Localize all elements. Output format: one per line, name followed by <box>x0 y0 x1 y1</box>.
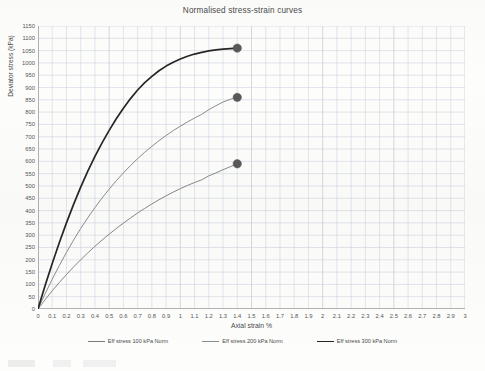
y-tick-label: 600 <box>25 158 35 164</box>
x-tick-label: 0.3 <box>77 313 85 319</box>
x-tick-label: 2.7 <box>418 313 426 319</box>
y-tick-label: 300 <box>25 232 35 238</box>
x-tick-label: 2.8 <box>433 313 441 319</box>
y-tick-label: 1050 <box>22 48 35 54</box>
x-tick-label: 0 <box>36 313 39 319</box>
legend-item-2[interactable]: Eff stress 200 kPa Norm <box>202 338 283 344</box>
legend-item-3[interactable]: Eff stress 300 kPa Norm <box>317 338 398 344</box>
page-footer-smudge <box>8 360 158 367</box>
x-tick-label: 0.9 <box>162 313 170 319</box>
y-tick-label: 500 <box>25 183 35 189</box>
y-tick-label: 550 <box>25 171 35 177</box>
x-tick-label: 1.5 <box>247 313 255 319</box>
x-tick-label: 1.4 <box>233 313 241 319</box>
y-tick-label: 1000 <box>22 60 35 66</box>
chart-figure: Normalised stress-strain curves Deviator… <box>0 0 485 371</box>
y-tick-label: 350 <box>25 220 35 226</box>
y-tick-label: 1150 <box>23 23 35 29</box>
y-tick-label: 250 <box>25 244 35 250</box>
y-tick-label: 700 <box>25 134 35 140</box>
legend-item-label: Eff stress 200 kPa Norm <box>222 338 283 344</box>
x-tick-label: 1.2 <box>205 313 213 319</box>
y-tick-label: 650 <box>25 146 35 152</box>
x-tick-label: 0.4 <box>91 313 99 319</box>
y-tick-label: 100 <box>25 281 35 287</box>
y-tick-label: 950 <box>25 72 35 78</box>
x-tick-label: 0.1 <box>48 313 56 319</box>
series-endpoint-marker-3 <box>233 44 241 52</box>
x-tick-label: 2.6 <box>404 313 412 319</box>
x-axis-label: Axial strain % <box>38 322 465 329</box>
x-tick-label: 1.1 <box>191 313 199 319</box>
x-tick-label: 0.8 <box>148 313 156 319</box>
x-tick-label: 2.4 <box>376 313 384 319</box>
legend-item-label: Eff stress 100 kPa Norm <box>108 338 169 344</box>
series-endpoint-marker-2 <box>233 93 241 101</box>
x-tick-label: 0.5 <box>105 313 113 319</box>
legend-swatch-line-icon <box>202 341 219 342</box>
y-tick-label: 900 <box>25 85 35 91</box>
grid-lines <box>38 26 465 309</box>
y-axis-label: Deviator stress (kPa) <box>7 6 14 126</box>
y-tick-label: 400 <box>25 208 35 214</box>
x-tick-label: 0.7 <box>134 313 142 319</box>
x-tick-label: 3 <box>463 313 466 319</box>
plot-area: Deviator stress (kPa) Axial strain % 050… <box>38 26 465 309</box>
x-tick-label: 2.1 <box>333 313 341 319</box>
x-tick-label: 1.7 <box>276 313 284 319</box>
plot-canvas <box>38 26 465 309</box>
legend-swatch-line-icon <box>88 341 105 342</box>
x-tick-label: 2.2 <box>347 313 355 319</box>
series-endpoint-marker-1 <box>233 160 241 168</box>
x-tick-label: 2 <box>321 313 324 319</box>
y-tick-label: 1100 <box>23 35 35 41</box>
y-tick-label: 450 <box>25 195 35 201</box>
y-tick-label: 200 <box>25 257 35 263</box>
x-tick-label: 1 <box>179 313 182 319</box>
x-tick-label: 1.6 <box>262 313 270 319</box>
y-tick-label: 150 <box>25 269 35 275</box>
y-tick-label: 0 <box>32 306 35 312</box>
y-tick-label: 750 <box>25 121 35 127</box>
legend-item-1[interactable]: Eff stress 100 kPa Norm <box>88 338 169 344</box>
y-tick-label: 850 <box>25 97 35 103</box>
y-tick-label: 800 <box>25 109 35 115</box>
x-tick-label: 2.5 <box>390 313 398 319</box>
x-tick-label: 2.3 <box>361 313 369 319</box>
legend-swatch-line-icon <box>317 341 334 342</box>
chart-legend: Eff stress 100 kPa NormEff stress 200 kP… <box>0 338 485 344</box>
x-tick-label: 1.9 <box>304 313 312 319</box>
x-tick-label: 0.2 <box>62 313 70 319</box>
x-tick-label: 1.8 <box>290 313 298 319</box>
x-tick-label: 1.3 <box>219 313 227 319</box>
legend-item-label: Eff stress 300 kPa Norm <box>337 338 398 344</box>
chart-title: Normalised stress-strain curves <box>0 6 485 15</box>
x-tick-label: 2.9 <box>447 313 455 319</box>
x-tick-label: 0.6 <box>119 313 127 319</box>
y-tick-label: 50 <box>29 294 35 300</box>
